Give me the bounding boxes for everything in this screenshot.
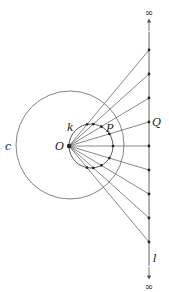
point-on-k (92, 123, 95, 126)
point-o (67, 144, 71, 148)
point-on-k (86, 166, 89, 169)
ray (69, 74, 149, 146)
point-on-l (148, 97, 151, 100)
ray (69, 146, 149, 242)
point-on-k (92, 167, 95, 170)
ray (69, 146, 149, 194)
point-on-k (112, 145, 115, 148)
infinity-top-label: ∞ (145, 7, 153, 18)
inversion-diagram: ∞ ∞ c k O P Q l (0, 0, 169, 292)
point-on-k (100, 164, 103, 167)
point-q (148, 121, 151, 124)
arrow-down-icon (147, 267, 151, 280)
point-on-l (148, 145, 151, 148)
label-l: l (153, 252, 157, 265)
point-on-k (86, 123, 89, 126)
arrow-up-icon (147, 19, 151, 32)
label-p: P (105, 122, 114, 135)
point-on-l (148, 73, 151, 76)
label-k: k (67, 121, 74, 134)
point-on-l (148, 241, 151, 244)
rays-from-o (69, 50, 149, 242)
label-q: Q (152, 116, 161, 129)
point-on-l (148, 169, 151, 172)
point-on-l (148, 217, 151, 220)
point-on-k (108, 157, 111, 160)
point-on-l (148, 49, 151, 52)
label-o: O (55, 140, 64, 153)
infinity-bottom-label: ∞ (145, 281, 153, 292)
point-on-k (100, 125, 103, 128)
point-on-l (148, 193, 151, 196)
label-c: c (5, 140, 11, 153)
